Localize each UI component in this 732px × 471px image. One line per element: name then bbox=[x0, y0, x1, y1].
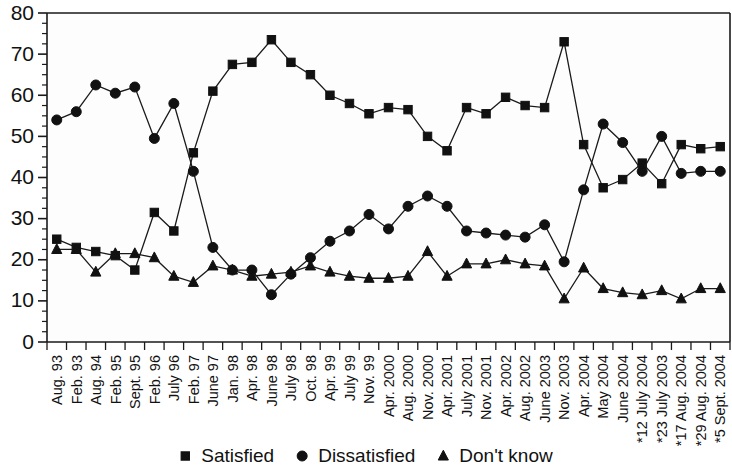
data-point bbox=[365, 110, 373, 118]
data-point bbox=[130, 82, 140, 92]
data-point bbox=[423, 132, 431, 140]
data-point bbox=[384, 103, 392, 111]
y-axis-label: 30 bbox=[11, 206, 34, 229]
data-point bbox=[169, 98, 179, 108]
x-axis-label: Feb. 95 bbox=[108, 355, 124, 404]
data-point bbox=[697, 145, 705, 153]
square-marker bbox=[181, 452, 189, 460]
data-point bbox=[443, 147, 451, 155]
y-axis-label: 20 bbox=[11, 247, 34, 270]
x-axis-tick-labels: Aug. 93Feb. 93Aug. 94Feb. 95Sept. 95Feb.… bbox=[49, 355, 728, 446]
data-point bbox=[228, 60, 236, 68]
x-axis-label: Nov. 99 bbox=[361, 355, 377, 404]
data-point bbox=[266, 290, 276, 300]
data-point bbox=[150, 208, 158, 216]
x-axis-label: June 2003 bbox=[537, 355, 553, 423]
x-axis-label: June 97 bbox=[205, 355, 221, 407]
legend-label: Dissatisfied bbox=[318, 445, 415, 466]
legend-label: Satisfied bbox=[201, 445, 274, 466]
data-point bbox=[92, 247, 100, 255]
y-axis-label: 40 bbox=[11, 165, 34, 188]
data-point bbox=[404, 105, 412, 113]
y-axis-label: 70 bbox=[11, 42, 34, 65]
data-point bbox=[188, 166, 198, 176]
data-point bbox=[501, 93, 509, 101]
x-axis-label: Nov. 2003 bbox=[556, 355, 572, 420]
x-axis-label: Apr. 2002 bbox=[498, 355, 514, 417]
x-axis-label: Jan. 98 bbox=[225, 355, 241, 403]
data-point bbox=[306, 70, 314, 78]
data-point bbox=[579, 140, 587, 148]
y-axis-label: 80 bbox=[11, 1, 34, 24]
x-axis-label: *12 July 2004 bbox=[634, 355, 650, 443]
data-point bbox=[110, 88, 120, 98]
x-axis-label: July 96 bbox=[166, 355, 182, 401]
x-axis-label: Feb. 93 bbox=[68, 355, 84, 404]
x-axis-label: Feb. 96 bbox=[147, 355, 163, 404]
x-axis-label: July 2001 bbox=[459, 355, 475, 417]
data-point bbox=[53, 235, 61, 243]
data-point bbox=[287, 58, 295, 66]
y-axis-label: 60 bbox=[11, 83, 34, 106]
data-point bbox=[462, 103, 470, 111]
x-axis-label: May 2004 bbox=[595, 355, 611, 419]
data-point bbox=[559, 257, 569, 267]
data-point bbox=[540, 103, 548, 111]
data-point bbox=[91, 80, 101, 90]
chart-legend: SatisfiedDissatisfiedDon't know bbox=[181, 445, 553, 466]
data-point bbox=[521, 101, 529, 109]
x-axis-label: Aug. 2002 bbox=[517, 355, 533, 421]
x-axis-label: Aug. 94 bbox=[88, 355, 104, 405]
x-axis-label: Apr. 98 bbox=[244, 355, 260, 401]
data-point bbox=[325, 236, 335, 246]
x-axis-label: Apr. 2000 bbox=[381, 355, 397, 417]
data-point bbox=[384, 224, 394, 234]
x-axis-label: June 98 bbox=[264, 355, 280, 407]
x-axis-label: *5 Sept. 2004 bbox=[712, 355, 728, 443]
triangle-marker bbox=[438, 450, 448, 460]
data-point bbox=[618, 138, 628, 148]
data-point bbox=[248, 58, 256, 66]
data-point bbox=[52, 115, 62, 125]
x-axis-label: July 99 bbox=[342, 355, 358, 401]
data-point bbox=[149, 133, 159, 143]
x-axis-label: Nov. 2000 bbox=[420, 355, 436, 420]
data-point bbox=[637, 166, 647, 176]
data-point bbox=[364, 210, 374, 220]
data-point bbox=[482, 110, 490, 118]
chart-canvas: 01020304050607080 Aug. 93Feb. 93Aug. 94F… bbox=[0, 0, 732, 471]
data-point bbox=[658, 179, 666, 187]
data-point bbox=[344, 226, 354, 236]
y-axis-label: 10 bbox=[11, 288, 34, 311]
x-axis-label: *29 Aug. 2004 bbox=[693, 355, 709, 446]
data-point bbox=[403, 201, 413, 211]
data-point bbox=[579, 185, 589, 195]
data-point bbox=[560, 38, 568, 46]
data-point bbox=[716, 142, 724, 150]
data-point bbox=[657, 131, 667, 141]
data-point bbox=[208, 242, 218, 252]
data-point bbox=[501, 230, 511, 240]
data-point bbox=[618, 175, 626, 183]
data-point bbox=[189, 149, 197, 157]
data-point bbox=[345, 99, 353, 107]
x-axis-label: June 2004 bbox=[615, 355, 631, 423]
data-point bbox=[520, 232, 530, 242]
y-axis-label: 0 bbox=[22, 330, 34, 353]
data-point bbox=[423, 191, 433, 201]
x-axis-label: Aug. 93 bbox=[49, 355, 65, 405]
line-chart: 01020304050607080 Aug. 93Feb. 93Aug. 94F… bbox=[0, 0, 732, 471]
x-axis-label: July 98 bbox=[283, 355, 299, 401]
x-axis-label: Sept. 95 bbox=[127, 355, 143, 409]
x-axis-label: Aug. 2000 bbox=[400, 355, 416, 421]
data-point bbox=[71, 107, 81, 117]
data-point bbox=[170, 227, 178, 235]
x-axis-label: Oct. 98 bbox=[303, 355, 319, 402]
y-axis-label: 50 bbox=[11, 124, 34, 147]
legend-label: Don't know bbox=[459, 445, 553, 466]
data-point bbox=[131, 266, 139, 274]
x-axis-label: Apr. 2001 bbox=[439, 355, 455, 417]
data-point bbox=[696, 166, 706, 176]
data-point bbox=[267, 36, 275, 44]
data-point bbox=[715, 166, 725, 176]
